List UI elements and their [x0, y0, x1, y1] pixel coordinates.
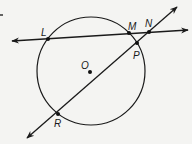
- point-l: [46, 37, 50, 41]
- line-rpn: [27, 7, 177, 138]
- label-p: P: [133, 50, 140, 61]
- line-lmn: [12, 30, 188, 41]
- label-m: M: [128, 21, 137, 32]
- label-n: N: [145, 18, 153, 29]
- point-p: [135, 41, 139, 45]
- point-n: [147, 30, 151, 34]
- label-o: O: [81, 60, 89, 71]
- points-group: LMNPRO: [41, 18, 153, 129]
- label-r: R: [54, 118, 61, 129]
- point-r: [56, 112, 60, 116]
- geometry-diagram: LMNPRO: [0, 0, 192, 144]
- label-l: L: [41, 27, 47, 38]
